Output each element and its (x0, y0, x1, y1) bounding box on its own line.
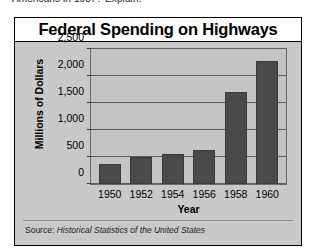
bar-slot (126, 49, 158, 184)
bar-1960 (256, 61, 278, 184)
bar-slot (157, 49, 189, 184)
bar-1954 (162, 154, 184, 184)
x-axis-tick-label: 1952 (126, 188, 158, 200)
source-title: Historical Statistics of the United Stat… (57, 225, 205, 235)
bar-1958 (225, 92, 247, 184)
bar-slot (189, 49, 221, 184)
x-axis-tick-label: 1960 (252, 188, 284, 200)
y-axis-tick-label: 2,500 (58, 31, 84, 43)
bar-1950 (99, 164, 121, 184)
chart-figure: Federal Spending on Highways Millions of… (14, 17, 302, 246)
bar-slot (220, 49, 252, 184)
bar-1956 (193, 150, 215, 184)
y-axis-label: Millions of Dollars (33, 54, 45, 154)
plot-area: 05001,0001,5002,0002,500 (90, 48, 287, 185)
bar-1952 (130, 157, 152, 184)
x-axis-tick-label: 1954 (157, 188, 189, 200)
plot-wrapper: Millions of Dollars 05001,0001,5002,0002… (15, 42, 301, 245)
bar-slot (252, 49, 284, 184)
y-axis-tick-label: 1,000 (58, 112, 84, 124)
bar-series (91, 49, 286, 184)
y-axis-tick-label: 0 (78, 166, 84, 178)
source-note: Source: Historical Statistics of the Uni… (25, 225, 205, 235)
source-divider (23, 220, 293, 221)
x-axis-tick-label: 1958 (220, 188, 252, 200)
cropped-body-text: Americans in 1957? Explain. (12, 0, 302, 5)
bar-slot (94, 49, 126, 184)
y-axis-tick-label: 2,000 (58, 58, 84, 70)
source-label: Source: (25, 225, 54, 235)
y-axis-tick-label: 1,500 (58, 85, 84, 97)
x-axis-tick-label: 1956 (189, 188, 221, 200)
x-axis-label: Year (91, 203, 286, 215)
x-axis-tick-labels: 195019521954195619581960 (91, 188, 286, 200)
x-axis-tick-label: 1950 (94, 188, 126, 200)
y-axis-tick-label: 500 (66, 139, 84, 151)
